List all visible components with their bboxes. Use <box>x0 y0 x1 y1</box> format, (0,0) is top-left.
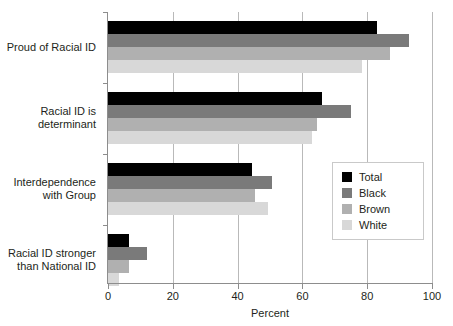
legend-label: Total <box>359 171 382 184</box>
legend-item: Brown <box>342 201 416 217</box>
x-axis-title: Percent <box>108 307 432 319</box>
bar <box>108 176 272 189</box>
x-tick-20 <box>173 284 174 289</box>
bar <box>108 105 351 118</box>
legend-label: White <box>359 219 387 232</box>
x-tick-0 <box>108 284 109 289</box>
category-label-line: Interdependence <box>0 176 96 189</box>
bar-chart: 020406080100 Proud of Racial IDRacial ID… <box>0 0 453 326</box>
x-tick-label: 20 <box>167 290 179 303</box>
bar <box>108 92 322 105</box>
bar <box>108 21 377 34</box>
legend: TotalBlackBrownWhite <box>332 162 424 240</box>
legend-swatch <box>342 172 352 182</box>
legend-swatch <box>342 188 352 198</box>
y-tick <box>103 225 108 226</box>
gridline-100 <box>432 12 433 283</box>
category-label: Proud of Racial ID <box>0 41 96 54</box>
category-label-line: than National ID <box>0 260 96 273</box>
legend-label: Brown <box>359 203 390 216</box>
bar <box>108 247 147 260</box>
legend-item: White <box>342 217 416 233</box>
x-tick-60 <box>302 284 303 289</box>
x-tick-label: 40 <box>231 290 243 303</box>
y-tick <box>103 12 108 13</box>
legend-item: Black <box>342 185 416 201</box>
bar <box>108 273 119 286</box>
y-tick <box>103 83 108 84</box>
category-label: Racial ID isdeterminant <box>0 105 96 131</box>
x-tick-label: 100 <box>423 290 441 303</box>
y-tick <box>103 154 108 155</box>
y-axis-line <box>107 12 108 284</box>
legend-swatch <box>342 220 352 230</box>
category-label: Interdependencewith Group <box>0 176 96 202</box>
bar <box>108 131 312 144</box>
bar <box>108 60 362 73</box>
x-tick-label: 0 <box>105 290 111 303</box>
x-tick-40 <box>238 284 239 289</box>
bar <box>108 260 129 273</box>
category-label-line: Racial ID stronger <box>0 247 96 260</box>
category-label: Racial ID strongerthan National ID <box>0 247 96 273</box>
plot-area <box>108 12 432 283</box>
x-tick-100 <box>432 284 433 289</box>
x-tick-label: 60 <box>296 290 308 303</box>
legend-swatch <box>342 204 352 214</box>
bar <box>108 189 255 202</box>
x-tick-80 <box>367 284 368 289</box>
x-tick-label: 80 <box>361 290 373 303</box>
bar <box>108 47 390 60</box>
bar <box>108 234 129 247</box>
category-label-line: with Group <box>0 189 96 202</box>
category-label-line: Racial ID is <box>0 105 96 118</box>
legend-item: Total <box>342 169 416 185</box>
bar <box>108 202 268 215</box>
category-label-line: Proud of Racial ID <box>0 41 96 54</box>
bar <box>108 118 317 131</box>
bar <box>108 34 409 47</box>
category-label-line: determinant <box>0 118 96 131</box>
bar <box>108 163 252 176</box>
x-axis-line <box>107 283 433 284</box>
legend-label: Black <box>359 187 386 200</box>
